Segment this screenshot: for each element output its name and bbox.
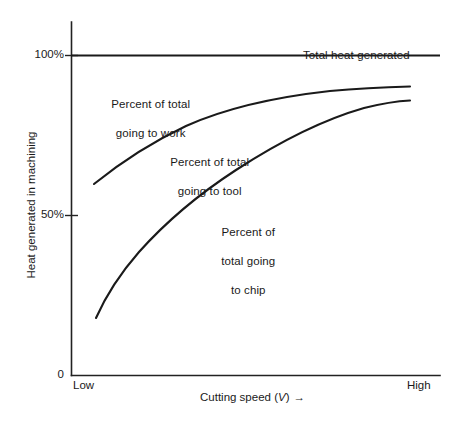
annotation-total-heat: Total heat generated [290, 33, 410, 77]
annotation-heat-to-tool-line1: Percent of total [170, 156, 249, 168]
annotation-heat-to-chip-line2: total going [221, 255, 275, 267]
arrow-right-icon: → [294, 391, 305, 403]
annotation-heat-to-work-line2: going to work [116, 127, 186, 139]
y-tick-label-0: 0 [18, 368, 64, 380]
x-tick-label-high: High [407, 379, 431, 391]
annotation-heat-to-work-line1: Percent of total [111, 98, 190, 110]
x-axis-title: Cutting speed (V)→ [132, 391, 372, 403]
annotation-heat-to-chip: Percent of total going to chip [208, 210, 275, 312]
x-axis-title-prefix: Cutting speed ( [200, 391, 278, 403]
annotation-heat-to-chip-line3: to chip [231, 284, 266, 296]
chart-figure: 100% 50% 0 Low High Heat generated in ma… [0, 0, 456, 427]
annotation-heat-to-tool: Percent of total going to tool [157, 140, 249, 213]
x-tick-label-low: Low [73, 379, 94, 391]
annotation-heat-to-chip-line1: Percent of [222, 226, 275, 238]
x-axis-title-variable: V [278, 391, 286, 403]
x-axis-title-suffix: ) [286, 391, 290, 403]
annotation-total-heat-line1: Total heat generated [303, 49, 410, 61]
y-axis-title: Heat generated in machining [25, 90, 37, 320]
annotation-heat-to-tool-line2: going to tool [178, 185, 242, 197]
y-tick-label-100: 100% [18, 48, 64, 60]
